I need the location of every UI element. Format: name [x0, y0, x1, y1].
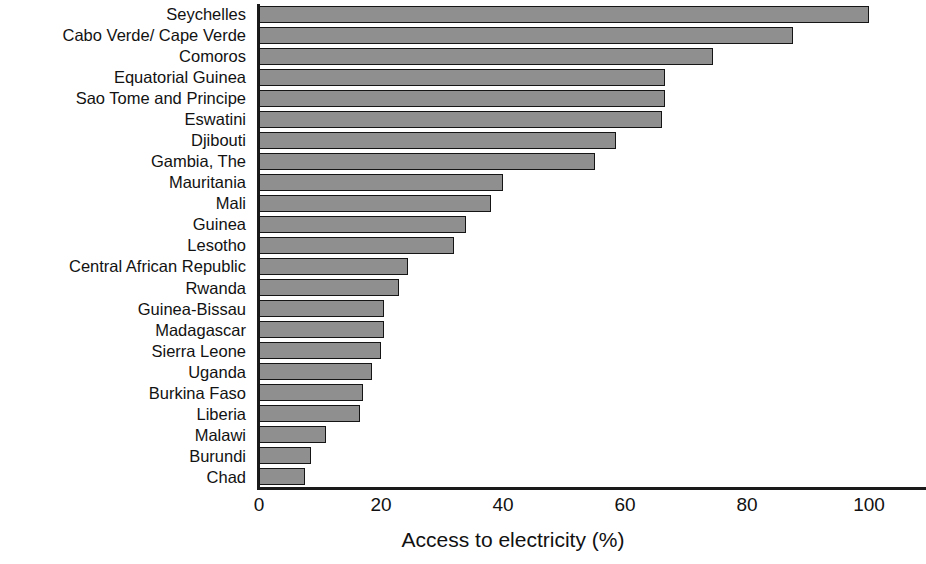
bar	[259, 447, 311, 464]
category-label: Djibouti	[0, 130, 246, 151]
category-label: Equatorial Guinea	[0, 67, 246, 88]
bar-row	[259, 235, 926, 256]
bar-row	[259, 25, 926, 46]
category-label: Uganda	[0, 362, 246, 383]
bar	[259, 300, 384, 317]
bar	[259, 174, 503, 191]
bar	[259, 384, 363, 401]
bar	[259, 90, 665, 107]
category-label: Guinea-Bissau	[0, 299, 246, 320]
category-label: Central African Republic	[0, 256, 246, 277]
category-label: Seychelles	[0, 4, 246, 25]
bar	[259, 321, 384, 338]
category-label: Eswatini	[0, 109, 246, 130]
category-label: Comoros	[0, 46, 246, 67]
value-tick-label: 60	[614, 494, 635, 516]
value-tick-label: 100	[853, 494, 885, 516]
bar	[259, 342, 381, 359]
bar-row	[259, 425, 926, 446]
category-label: Malawi	[0, 425, 246, 446]
bar-row	[259, 151, 926, 172]
bar-row	[259, 109, 926, 130]
category-label: Mali	[0, 193, 246, 214]
bar	[259, 195, 491, 212]
bar	[259, 69, 665, 86]
value-tick-label: 0	[254, 494, 265, 516]
bar	[259, 27, 793, 44]
bar	[259, 216, 466, 233]
category-label: Rwanda	[0, 278, 246, 299]
bar-row	[259, 193, 926, 214]
bar-row	[259, 67, 926, 88]
category-label: Gambia, The	[0, 151, 246, 172]
bar-row	[259, 256, 926, 277]
bar	[259, 405, 360, 422]
bar-chart-figure: 020406080100 Access to electricity (%) S…	[0, 0, 926, 564]
bar-row	[259, 446, 926, 467]
bar	[259, 111, 662, 128]
bar-row	[259, 172, 926, 193]
value-tick-label: 40	[492, 494, 513, 516]
category-label: Burkina Faso	[0, 383, 246, 404]
category-label: Sierra Leone	[0, 341, 246, 362]
bar	[259, 258, 408, 275]
bar	[259, 237, 454, 254]
category-label: Madagascar	[0, 320, 246, 341]
category-label: Lesotho	[0, 235, 246, 256]
bar	[259, 6, 869, 23]
bar-row	[259, 46, 926, 67]
bar-row	[259, 404, 926, 425]
bar-row	[259, 467, 926, 488]
bar	[259, 426, 326, 443]
bar	[259, 153, 595, 170]
bar	[259, 363, 372, 380]
bar-row	[259, 214, 926, 235]
bar-row	[259, 320, 926, 341]
plot-area	[259, 4, 926, 488]
bar-row	[259, 362, 926, 383]
bar-row	[259, 130, 926, 151]
category-label: Burundi	[0, 446, 246, 467]
value-tick-label: 20	[370, 494, 391, 516]
category-label: Guinea	[0, 214, 246, 235]
category-label: Sao Tome and Principe	[0, 88, 246, 109]
bar-row	[259, 341, 926, 362]
bar-row	[259, 383, 926, 404]
category-label: Liberia	[0, 404, 246, 425]
category-label: Cabo Verde/ Cape Verde	[0, 25, 246, 46]
x-axis-title: Access to electricity (%)	[0, 528, 926, 552]
bar-row	[259, 4, 926, 25]
bar	[259, 468, 305, 485]
bar	[259, 48, 713, 65]
bar	[259, 132, 616, 149]
bar-row	[259, 88, 926, 109]
bar	[259, 279, 399, 296]
category-label: Chad	[0, 467, 246, 488]
category-label: Mauritania	[0, 172, 246, 193]
bar-row	[259, 278, 926, 299]
bar-row	[259, 299, 926, 320]
value-tick-label: 80	[736, 494, 757, 516]
